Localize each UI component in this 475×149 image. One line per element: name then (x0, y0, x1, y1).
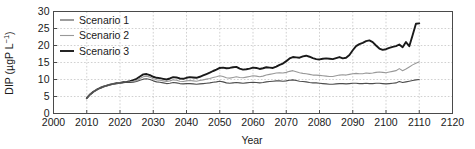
dip-scenarios-line-chart: 2000201020202030204020502060207020802090… (0, 0, 475, 149)
x-tick-label: 2040 (175, 116, 199, 128)
y-axis-title-superscript: −1 (2, 35, 11, 44)
chart-figure: 2000201020202030204020502060207020802090… (0, 0, 475, 149)
chart-background (0, 0, 475, 149)
y-tick-label: 15 (38, 56, 50, 68)
x-axis-title: Year (241, 134, 263, 146)
y-tick-label: 10 (38, 73, 50, 85)
x-tick-label: 2090 (341, 116, 365, 128)
chart-legend: Scenario 1Scenario 2Scenario 3 (60, 14, 129, 57)
y-tick-label: 30 (38, 5, 50, 17)
y-tick-label: 25 (38, 22, 50, 34)
x-tick-label: 2070 (275, 116, 299, 128)
x-tick-label: 2120 (441, 116, 465, 128)
y-axis-title-base: DIP (µgP L (3, 43, 15, 94)
x-tick-label: 2080 (308, 116, 332, 128)
x-tick-label: 2030 (142, 116, 166, 128)
legend-label-scenario-3: Scenario 3 (79, 45, 129, 57)
y-axis-title-close: ) (3, 31, 15, 35)
x-tick-label: 2060 (241, 116, 265, 128)
x-tick-label: 2010 (75, 116, 99, 128)
y-tick-label: 0 (44, 107, 50, 119)
x-tick-label: 2110 (408, 116, 431, 128)
legend-label-scenario-1: Scenario 1 (79, 14, 129, 26)
legend-label-scenario-2: Scenario 2 (79, 29, 129, 41)
x-tick-label: 2020 (108, 116, 132, 128)
y-tick-label: 20 (38, 39, 50, 51)
x-tick-label: 2050 (208, 116, 232, 128)
y-tick-label: 5 (44, 90, 50, 102)
x-tick-label: 2100 (374, 116, 398, 128)
